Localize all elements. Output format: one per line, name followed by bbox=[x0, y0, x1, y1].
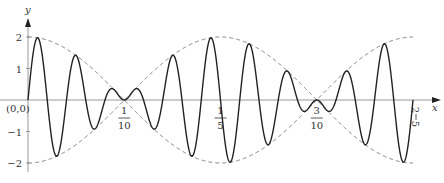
y-axis-arrow-icon bbox=[25, 18, 31, 27]
svg-text:3: 3 bbox=[314, 105, 320, 116]
modulated-wave bbox=[28, 38, 413, 162]
x-axis-label: x bbox=[432, 102, 438, 113]
y-tick-label: −2 bbox=[7, 158, 22, 169]
y-tick-label: −1 bbox=[7, 127, 22, 138]
x-ticks: 1101531025 bbox=[118, 105, 421, 131]
svg-text:10: 10 bbox=[310, 120, 323, 131]
y-tick-label: 2 bbox=[16, 32, 22, 43]
y-axis-label: y bbox=[24, 4, 31, 15]
svg-text:10: 10 bbox=[118, 120, 131, 131]
origin-label: (0,0) bbox=[6, 103, 30, 114]
svg-text:5: 5 bbox=[410, 121, 421, 127]
chart: x y (0,0) 21−1−2 1101531025 bbox=[0, 0, 444, 183]
x-tick-label: 310 bbox=[310, 105, 323, 131]
y-tick-label: 1 bbox=[16, 64, 22, 75]
x-tick-label: 110 bbox=[118, 105, 131, 131]
x-tick-label: 15 bbox=[215, 105, 227, 131]
svg-text:1: 1 bbox=[121, 105, 127, 116]
